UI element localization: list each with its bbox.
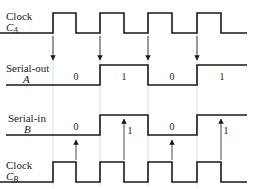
bit-value: 1 xyxy=(128,125,133,136)
clock-a-label: Clock CA xyxy=(6,10,33,35)
clock-edge-arrows xyxy=(53,36,221,160)
serial-in-label-symbol: B xyxy=(24,123,31,135)
bit-value: 0 xyxy=(170,121,175,132)
bit-value: 0 xyxy=(170,71,175,82)
serial-in-label: Serial-in B xyxy=(8,112,46,135)
bit-value: 1 xyxy=(224,125,229,136)
timing-diagram: Clock CA Serial-out A Serial-in B Clock … xyxy=(0,0,255,189)
bit-value: 0 xyxy=(74,71,79,82)
clock-b-label: Clock CB xyxy=(6,159,33,184)
bit-value: 1 xyxy=(220,71,225,82)
bit-value: 1 xyxy=(122,71,127,82)
clock-a-waveform xyxy=(0,13,247,33)
bit-value: 0 xyxy=(74,121,79,132)
serial-out-label: Serial-out A xyxy=(6,62,49,85)
serial-out-label-symbol: A xyxy=(22,73,30,85)
clock-b-waveform xyxy=(0,162,247,182)
guide-lines xyxy=(53,13,197,186)
bit-values: 01010101 xyxy=(74,71,229,136)
